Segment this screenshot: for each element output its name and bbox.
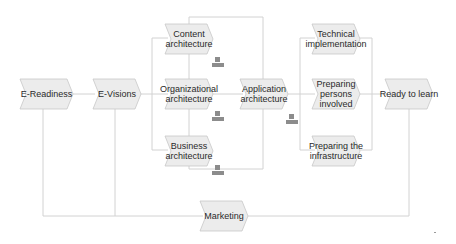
node-label-e-visions: E-Visions [87,79,147,109]
node-label-preparing-persons-involved: Preparing persons involved [306,79,366,109]
node-label-ready-to-learn: Ready to learn [379,79,439,109]
nodes [20,24,433,231]
node-label-organizational-architecture: Organizational architecture [159,79,219,109]
org-structure-icon [212,165,224,175]
node-label-business-architecture: Business architecture [159,136,219,166]
node-label-application-architecture: Application architecture [234,79,294,109]
node-label-e-readiness: E-Readiness [14,79,79,109]
org-structure-icon [286,114,298,124]
icons [212,57,298,175]
node-label-preparing-the-infrastructure: Preparing the infrastructure [306,136,366,166]
org-structure-icon [212,57,224,67]
node-label-technical-implementation: Technical implementation [306,24,366,54]
node-label-marketing: Marketing [194,201,254,231]
org-structure-icon [212,111,224,121]
stray-dot [434,232,436,233]
node-label-content-architecture: Content architecture [159,24,219,54]
